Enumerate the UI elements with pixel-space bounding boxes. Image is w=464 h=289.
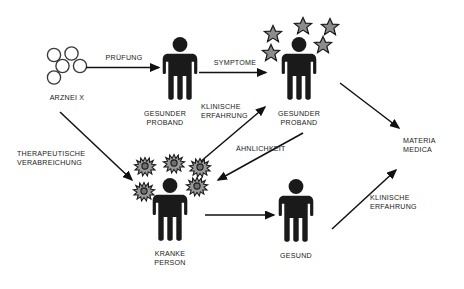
edge-label-klinische-erfahrung-right-line2: ERFAHRUNG: [370, 203, 417, 212]
node-label-cured-person: GESUND: [280, 252, 312, 261]
arrow-aehnlichkeit: [218, 133, 303, 180]
edge-label-therapeutische-verabreichung-line1: THERAPEUTISCHE: [17, 150, 85, 159]
node-label-healthy-subject-2-line2: PROBAND: [281, 119, 318, 128]
person-icon-healthy-subject-1: [163, 37, 198, 100]
edge-label-pruefung: PRÜFUNG: [106, 54, 143, 63]
node-label-materia-medica-line1: MATERIA: [403, 137, 436, 146]
arrow-therapeutische-verabreichung: [60, 112, 132, 180]
node-label-arznei-x: ARZNEI X: [50, 94, 85, 103]
edge-label-therapeutische-verabreichung-line2: VERABREICHUNG: [17, 159, 82, 168]
node-label-sick-person-line1: KRANKE: [155, 250, 186, 259]
edge-label-symptome: SYMPTOME: [214, 59, 256, 68]
edge-label-aehnlichkeit: ÄHNLICHKEIT: [236, 145, 286, 154]
person-icon-sick-person: [153, 178, 188, 241]
diagram-canvas: ARZNEI X GESUNDER PROBAND GESUNDER PROBA…: [0, 0, 464, 289]
person-icon-healthy-subject-2: [282, 37, 317, 100]
diagram-graphics: [0, 0, 464, 289]
edge-label-klinische-erfahrung-middle-line2: ERFAHRUNG: [201, 112, 248, 121]
arrow-healthy-to-materia-medica: [340, 83, 399, 128]
person-icon-cured-person: [279, 179, 314, 242]
node-label-materia-medica-line2: MEDICA: [403, 146, 432, 155]
molecule-cluster-icon: [47, 47, 86, 84]
node-label-healthy-subject-2-line1: GESUNDER: [278, 110, 320, 119]
node-label-sick-person-line2: PERSON: [154, 259, 185, 268]
edge-label-klinische-erfahrung-right-line1: KLINISCHE: [370, 194, 410, 203]
edge-label-klinische-erfahrung-middle-line1: KLINISCHE: [201, 103, 241, 112]
germ-cluster-group: [133, 155, 210, 201]
node-label-healthy-subject-1-line1: GESUNDER: [144, 110, 186, 119]
node-label-healthy-subject-1-line2: PROBAND: [147, 119, 184, 128]
